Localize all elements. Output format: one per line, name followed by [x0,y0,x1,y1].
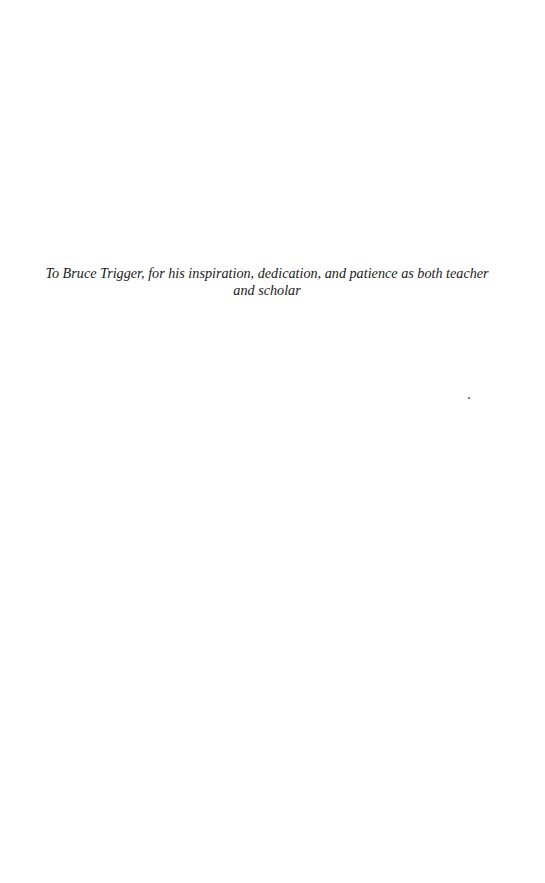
scan-speck [468,397,470,399]
dedication-text: To Bruce Trigger, for his inspiration, d… [40,265,494,299]
